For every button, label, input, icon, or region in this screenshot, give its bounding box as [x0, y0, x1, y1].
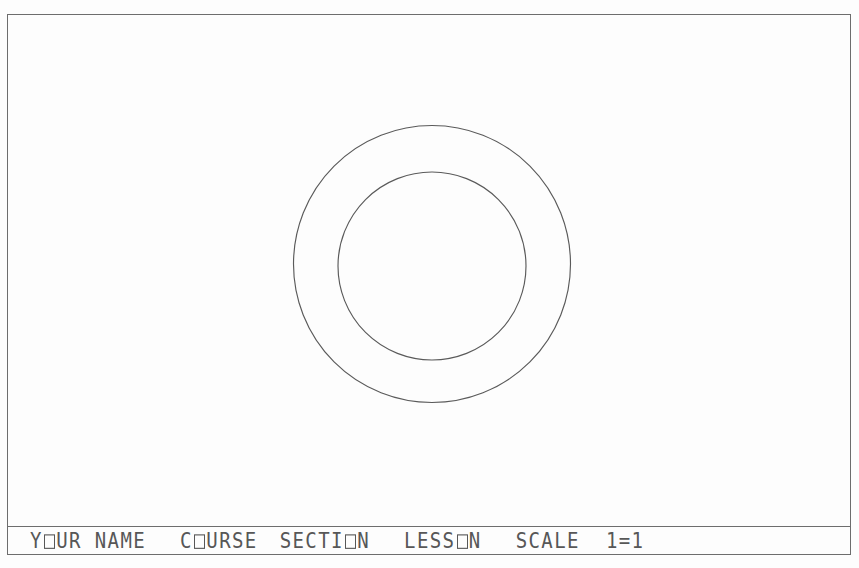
title-block-text-row: YUR NAME CURSE SECTIN LESSN SCALE 1=1 [8, 531, 850, 550]
lesson-text-tail: N [469, 528, 482, 553]
letter-o-box-icon [44, 534, 55, 549]
name-text-tail: UR NAME [56, 528, 146, 553]
title-block: YUR NAME CURSE SECTIN LESSN SCALE 1=1 [8, 526, 850, 554]
title-field-name: YUR NAME [30, 530, 146, 551]
name-text-lead: Y [30, 528, 43, 553]
title-field-section: SECTIN [280, 530, 370, 551]
inner-circle [338, 172, 526, 360]
drawing-area [8, 15, 850, 528]
letter-o-box-icon [345, 534, 356, 549]
course-text-tail: URSE [206, 528, 257, 553]
title-field-lesson: LESSN [404, 530, 482, 551]
section-text-tail: N [357, 528, 370, 553]
course-text-lead: C [180, 528, 193, 553]
title-field-scale-value: 1=1 [606, 530, 645, 551]
letter-o-box-icon [457, 534, 468, 549]
lesson-text-lead: LESS [404, 528, 455, 553]
letter-o-box-icon [194, 534, 205, 549]
concentric-circles-drawing [8, 15, 850, 528]
title-field-course: CURSE [180, 530, 258, 551]
section-text-lead: SECTI [280, 528, 344, 553]
drawing-sheet: YUR NAME CURSE SECTIN LESSN SCALE 1=1 [0, 0, 859, 568]
outer-circle [294, 126, 571, 403]
drawing-border-frame: YUR NAME CURSE SECTIN LESSN SCALE 1=1 [7, 14, 851, 555]
title-field-scale-label: SCALE [516, 530, 580, 551]
